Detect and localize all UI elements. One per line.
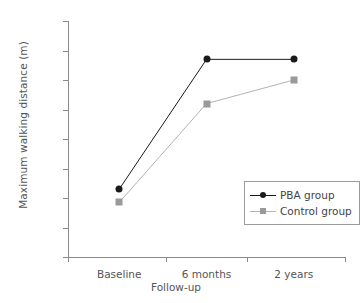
y-tick bbox=[63, 198, 68, 199]
data-point bbox=[116, 186, 123, 193]
series-line-pba-group bbox=[119, 59, 294, 189]
x-tick-label: 6 months bbox=[162, 268, 252, 280]
x-axis-title: Follow-up bbox=[0, 281, 352, 293]
legend-label: Control group bbox=[280, 205, 352, 217]
y-axis-line bbox=[68, 21, 69, 257]
legend-item: Control group bbox=[250, 203, 352, 219]
legend-item: PBA group bbox=[250, 187, 352, 203]
x-axis-line bbox=[68, 257, 345, 258]
x-tick-label: 2 years bbox=[249, 268, 339, 280]
x-tick bbox=[247, 257, 248, 262]
data-point bbox=[116, 199, 123, 206]
x-tick-label: Baseline bbox=[74, 268, 164, 280]
y-tick bbox=[63, 80, 68, 81]
y-tick bbox=[63, 139, 68, 140]
y-tick bbox=[63, 169, 68, 170]
x-tick bbox=[345, 257, 346, 262]
x-tick bbox=[68, 257, 69, 262]
plot-area: 0100200300400500600700800 Baseline6 mont… bbox=[68, 21, 345, 257]
data-point bbox=[290, 56, 297, 63]
data-point bbox=[203, 100, 210, 107]
legend-marker-control-group bbox=[250, 206, 276, 216]
y-tick bbox=[63, 51, 68, 52]
legend: PBA group Control group bbox=[244, 181, 360, 225]
y-tick bbox=[63, 110, 68, 111]
data-point bbox=[290, 77, 297, 84]
y-tick bbox=[63, 228, 68, 229]
y-tick bbox=[63, 21, 68, 22]
legend-marker-pba-group bbox=[250, 190, 276, 200]
x-tick bbox=[166, 257, 167, 262]
legend-label: PBA group bbox=[280, 189, 335, 201]
data-point bbox=[203, 56, 210, 63]
y-axis-title: Maximum walking distance (m) bbox=[17, 25, 29, 225]
